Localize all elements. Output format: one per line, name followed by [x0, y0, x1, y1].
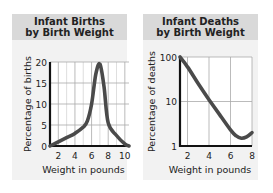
- births-x-tick: 10: [119, 151, 131, 161]
- charts-canvas: 24681005101520Weight in poundsPercentage…: [0, 0, 273, 193]
- births-x-tick: 2: [55, 151, 61, 161]
- deaths-y-tick: 10: [166, 97, 178, 107]
- births-x-tick: 8: [105, 151, 111, 161]
- births-y-tick: 15: [36, 79, 47, 89]
- births-y-tick: 10: [36, 100, 48, 110]
- deaths-y-axis-label: Percentage of deaths: [146, 51, 157, 152]
- births-y-tick: 0: [41, 142, 47, 152]
- births-y-tick: 20: [36, 58, 48, 68]
- deaths-x-tick: 4: [206, 151, 212, 161]
- deaths-x-tick: 6: [228, 151, 234, 161]
- births-x-tick: 6: [89, 151, 95, 161]
- births-x-axis-label: Weight in pounds: [42, 164, 125, 175]
- births-x-tick: 4: [72, 151, 78, 161]
- deaths-x-axis-label: Weight in pounds: [169, 164, 252, 175]
- births-y-axis-label: Percentage of births: [22, 56, 33, 152]
- births-y-tick: 5: [41, 121, 47, 131]
- deaths-x-tick: 2: [185, 151, 191, 161]
- deaths-y-tick: 1: [171, 142, 177, 152]
- deaths-x-tick: 8: [249, 151, 255, 161]
- deaths-y-tick: 100: [160, 53, 177, 63]
